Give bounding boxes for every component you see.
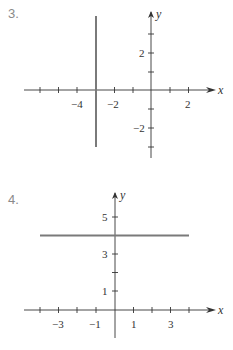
x-tick-label: −3 xyxy=(52,318,64,330)
x-tick-label: 1 xyxy=(131,318,137,330)
graph-4: x y −3 −1 1 3 5 3 1 xyxy=(24,188,224,338)
graph-3: x y −4 −2 2 2 −2 xyxy=(24,7,224,158)
x-tick-label: −2 xyxy=(107,98,119,110)
graphs-canvas: x y −4 −2 2 2 −2 xyxy=(0,0,233,350)
y-tick-label: 3 xyxy=(102,248,108,260)
y-axis-label: y xyxy=(119,188,126,202)
y-tick-label: −2 xyxy=(133,122,145,134)
y-tick-label: 2 xyxy=(139,47,145,59)
y-tick-label: 1 xyxy=(102,285,108,297)
x-tick-label: −1 xyxy=(89,318,101,330)
x-axis-label: x xyxy=(217,303,224,317)
x-tick-label: 2 xyxy=(185,98,191,110)
y-axis-label: y xyxy=(155,7,162,21)
y-tick-label: 5 xyxy=(102,211,108,223)
x-axis-label: x xyxy=(217,83,224,97)
x-tick-label: 3 xyxy=(168,318,174,330)
x-tick-label: −4 xyxy=(71,98,83,110)
